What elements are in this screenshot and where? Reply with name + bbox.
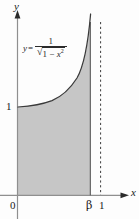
x-tick-label-0: 0 xyxy=(10,200,16,211)
equation-lhs: y xyxy=(23,43,27,53)
equation-fraction: 1 √ 1 − x2 xyxy=(35,37,67,60)
plot-canvas xyxy=(0,0,139,219)
y-tick-label-1: 1 xyxy=(6,101,12,112)
radicand: 1 − x2 xyxy=(42,47,65,59)
x-axis-label: x xyxy=(131,187,136,198)
equation-equals-sign: = xyxy=(28,43,33,53)
square-root-icon: √ 1 − x2 xyxy=(37,47,65,59)
equation-numerator: 1 xyxy=(46,37,57,46)
x-tick-label-beta: β xyxy=(86,200,92,211)
equation-annotation: y = 1 √ 1 − x2 xyxy=(23,37,67,60)
figure-area-under-curve: y x 1 0 β 1 y = 1 √ 1 − x2 xyxy=(0,0,139,219)
radicand-main: 1 − xyxy=(43,49,57,59)
equation-denominator: √ 1 − x2 xyxy=(35,47,67,59)
x-tick-label-1: 1 xyxy=(99,200,105,211)
y-axis-label: y xyxy=(14,1,19,12)
x-axis-arrow xyxy=(121,192,130,198)
radicand-exponent: 2 xyxy=(61,48,64,54)
